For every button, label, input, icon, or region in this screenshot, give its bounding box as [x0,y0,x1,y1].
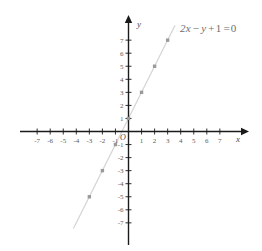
x-tick-label: -5 [60,137,66,145]
y-tick-label: 5 [120,63,124,71]
origin-label: O [120,133,126,142]
axes-group [20,15,249,245]
y-tick-label: -3 [118,167,124,175]
data-point-marker [127,117,130,120]
y-tick-label: 7 [120,37,124,45]
x-tick-label: -2 [99,137,105,145]
y-tick-label: -6 [118,206,124,214]
y-tick-label: 4 [120,76,124,84]
equation-equals-sign: = [223,22,229,34]
y-tick-label: 1 [120,115,124,123]
x-tick-label: 7 [218,137,222,145]
x-axis-label: x [235,134,240,144]
y-tick-label: -7 [118,219,124,227]
graph-canvas: -7-6-5-4-3-2-11234567 -7-6-5-4-3-2-11234… [0,0,262,251]
equation-constant: 1 [216,22,222,34]
x-tick-label: 5 [192,137,196,145]
data-point-marker [166,38,169,41]
x-tick-label: 6 [205,137,209,145]
x-tick-label: -7 [34,137,40,145]
equation-minus-sign: − [193,22,199,34]
y-tick-label: 2 [120,102,124,110]
x-tick-label: 1 [140,137,144,145]
data-point-marker [101,169,104,172]
equation-plus-sign: + [208,22,214,34]
y-axis-label: y [136,19,141,29]
y-tick-label: -4 [118,180,124,188]
equation-annotation: 2x−y+1=0 [180,22,237,34]
x-tick-label: -6 [47,137,53,145]
x-tick-label: -3 [86,137,92,145]
y-tick-label: -2 [118,154,124,162]
data-point-marker [88,195,91,198]
y-tick-label: 3 [120,89,124,97]
coordinate-plane-figure: -7-6-5-4-3-2-11234567 -7-6-5-4-3-2-11234… [0,0,262,251]
y-axis-arrow-icon [125,15,132,23]
equation-zero: 0 [231,22,237,34]
equation-var-x: x [185,22,191,34]
data-point-marker [153,65,156,68]
y-tick-label: 6 [120,50,124,58]
x-tick-label: 2 [153,137,157,145]
equation-var-y: y [200,22,206,34]
y-tick-label: -1 [118,141,124,149]
y-tick-label: -5 [118,193,124,201]
x-tick-label: 4 [179,137,183,145]
x-axis-arrow-icon [241,128,249,135]
data-point-marker [140,91,143,94]
data-point-marker [114,143,117,146]
x-tick-label: -4 [73,137,79,145]
x-tick-label: 3 [166,137,170,145]
